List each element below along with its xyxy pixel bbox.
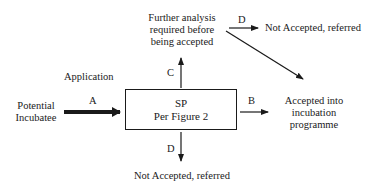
potential-incubatee-line2: Incubatee — [8, 112, 64, 124]
edge-a-label: A — [89, 95, 97, 107]
sp-box-line1: SP — [175, 97, 187, 110]
edge-d-top-label: D — [238, 14, 246, 26]
edge-d-bottom-label: D — [167, 143, 175, 155]
accepted-line2: incubation — [274, 107, 354, 119]
edge-b-label: B — [248, 95, 255, 107]
node-potential-incubatee: Potential Incubatee — [8, 100, 64, 124]
node-further-analysis: Further analysis required before being a… — [140, 12, 224, 48]
node-sp-box: SP Per Figure 2 — [125, 89, 237, 130]
node-not-accepted-bottom: Not Accepted, referred — [134, 170, 230, 182]
edge-c-label: C — [167, 67, 174, 79]
further-analysis-line1: Further analysis — [140, 12, 224, 24]
potential-incubatee-line1: Potential — [8, 100, 64, 112]
accepted-line3: programme — [274, 119, 354, 131]
application-label: Application — [64, 71, 114, 83]
accepted-line1: Accepted into — [274, 95, 354, 107]
node-accepted: Accepted into incubation programme — [274, 95, 354, 131]
diagonal-arrow — [226, 31, 303, 79]
node-not-accepted-top: Not Accepted, referred — [265, 22, 361, 34]
further-analysis-line2: required before — [140, 24, 224, 36]
sp-box-line2: Per Figure 2 — [154, 110, 208, 123]
further-analysis-line3: being accepted — [140, 36, 224, 48]
